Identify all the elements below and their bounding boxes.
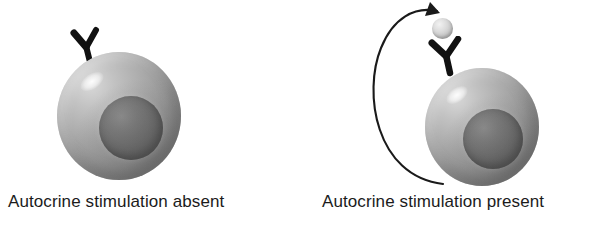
cell-highlight [77,68,107,95]
panel-caption: Autocrine stimulation absent [8,193,224,210]
cell-nucleus [99,96,163,160]
cell-body [57,52,181,180]
panel-caption: Autocrine stimulation present [322,193,544,210]
cell-highlight [443,82,471,107]
cell-nucleus [463,109,523,169]
figure-canvas: Autocrine stimulation absent Auto [0,0,606,228]
panel-autocrine-present: Autocrine stimulation present [303,0,606,228]
cell-body [425,68,539,186]
panel-autocrine-absent: Autocrine stimulation absent [0,0,303,228]
